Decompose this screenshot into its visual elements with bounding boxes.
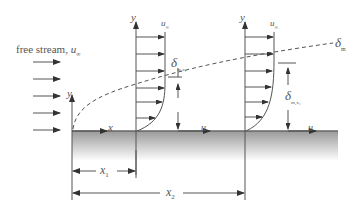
dim-x1-label: x1 bbox=[100, 164, 109, 179]
boundary-layer-sub: m bbox=[341, 46, 346, 52]
profile1-delta-sub: m,x₁ bbox=[177, 67, 186, 72]
flat-plate bbox=[72, 131, 338, 161]
free-stream-label: free stream, u∞ bbox=[16, 44, 80, 57]
profile2-delta-label: δm,x₂ bbox=[285, 89, 300, 105]
profile2-delta-sub: m,x₂ bbox=[291, 100, 300, 105]
free-stream-sub: ∞ bbox=[76, 51, 80, 57]
profile1-u-inf-sub: ∞ bbox=[166, 25, 170, 30]
profile2-u-inf-sub: ∞ bbox=[275, 25, 279, 30]
profile1-delta-label: δm,x₁ bbox=[171, 56, 186, 72]
profile1-y-label: y bbox=[131, 12, 136, 23]
dim-x1-sub: 1 bbox=[105, 171, 109, 179]
origin-y-label: y bbox=[67, 88, 72, 99]
profile2-y-label: y bbox=[240, 12, 245, 23]
profile1-u-label: u bbox=[201, 123, 206, 133]
profile1-u-inf-label: u∞ bbox=[161, 19, 169, 30]
profile2-u-inf-label: u∞ bbox=[270, 19, 278, 30]
profile2-u-label: u bbox=[308, 123, 313, 133]
dim-x2-sub: 2 bbox=[171, 193, 175, 201]
boundary-layer-label: δm bbox=[335, 36, 346, 52]
free-stream-arrows bbox=[33, 62, 60, 130]
boundary-layer-edge bbox=[73, 43, 333, 129]
free-stream-text: free stream, bbox=[16, 43, 71, 55]
diagram-graphics bbox=[0, 0, 352, 211]
boundary-layer-diagram: free stream, u∞ y x y u∞ δm,x₁ u y u∞ δm… bbox=[0, 0, 352, 211]
dim-x2-label: x2 bbox=[166, 186, 175, 201]
origin-x-label: x bbox=[108, 122, 113, 133]
velocity-profile-2 bbox=[245, 22, 316, 200]
